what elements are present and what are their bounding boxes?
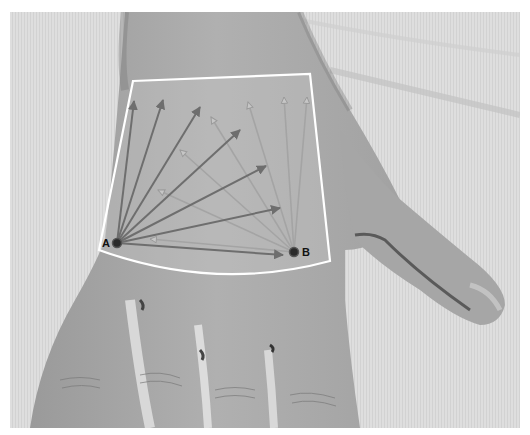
diagram-overlay xyxy=(0,0,530,435)
point-a-label: A xyxy=(102,238,110,249)
point-b-label: B xyxy=(302,247,310,258)
point-b-marker xyxy=(290,248,299,257)
point-a-marker xyxy=(113,239,122,248)
